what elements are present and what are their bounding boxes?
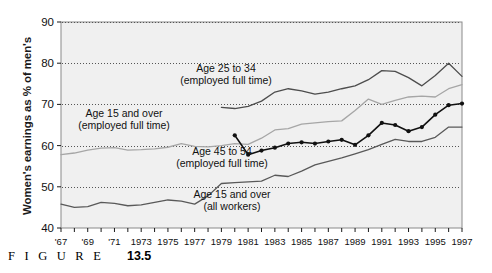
y-tick-label: 90 (41, 16, 54, 28)
series-marker (460, 101, 464, 105)
series-marker (340, 138, 344, 142)
x-tick-label: 1981 (238, 236, 259, 247)
x-tick-label: 1973 (131, 236, 152, 247)
x-tick-label: 1979 (211, 236, 232, 247)
series-marker (326, 139, 330, 143)
line-chart: 405060708090'67'69'711973197519771979198… (0, 0, 492, 273)
series-marker (420, 125, 424, 129)
series-marker (353, 143, 357, 147)
figure-caption: F I G U R E 13.5 (8, 249, 151, 264)
series-marker (366, 133, 370, 137)
x-tick-label: 1985 (291, 236, 312, 247)
y-tick-label: 70 (41, 98, 54, 110)
y-tick-label: 50 (41, 181, 54, 193)
annotation-line-1: Age 15 and over (85, 107, 163, 119)
figure-caption-word: F I G U R E (8, 249, 104, 264)
series-marker (273, 146, 277, 150)
annotation-line-2: (employed full time) (180, 74, 272, 86)
series-marker (393, 123, 397, 127)
annotation-line-2: (employed full time) (176, 157, 268, 169)
x-tick-label: '71 (108, 236, 120, 247)
annotation-line-2: (employed full time) (78, 119, 170, 131)
y-tick-label: 60 (41, 140, 54, 152)
x-tick-label: 1975 (157, 236, 178, 247)
series-marker (286, 141, 290, 145)
series-marker (433, 113, 437, 117)
series-marker (300, 140, 304, 144)
figure-container: Women's earnings as % of men's 405060708… (0, 0, 492, 273)
y-tick-label: 80 (41, 57, 54, 69)
series-marker (313, 141, 317, 145)
x-tick-label: 1983 (264, 236, 285, 247)
x-tick-label: 1991 (371, 236, 392, 247)
x-tick-label: 1997 (451, 236, 472, 247)
series-marker (447, 103, 451, 107)
x-tick-label: '69 (82, 236, 94, 247)
x-tick-label: 1995 (425, 236, 446, 247)
series-marker (380, 121, 384, 125)
annotation-line-2: (all workers) (203, 200, 260, 212)
series-annotation: Age 15 and over(all workers) (193, 188, 271, 212)
series-marker (233, 133, 237, 137)
x-tick-label: 1987 (318, 236, 339, 247)
annotation-line-1: Age 25 to 34 (196, 62, 256, 74)
annotation-line-1: Age 45 to 54 (192, 145, 252, 157)
x-tick-label: '67 (55, 236, 67, 247)
figure-caption-number: 13.5 (127, 249, 151, 263)
annotation-line-1: Age 15 and over (193, 188, 271, 200)
series-marker (406, 129, 410, 133)
x-tick-label: 1977 (184, 236, 205, 247)
series-annotation: Age 15 and over(employed full time) (78, 107, 170, 131)
x-tick-label: 1993 (398, 236, 419, 247)
y-tick-label: 40 (41, 222, 54, 234)
x-tick-label: 1989 (344, 236, 365, 247)
series-marker (259, 148, 263, 152)
